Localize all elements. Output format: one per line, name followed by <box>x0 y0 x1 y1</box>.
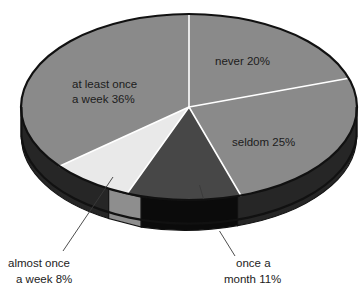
pie-chart-figure: never 20% seldom 25% at least once a wee… <box>0 0 360 295</box>
label-almost-once-a-week-line1: almost once <box>8 257 70 269</box>
label-once-a-month-line2: month 11% <box>224 273 281 285</box>
label-almost-once-a-week-line2: a week 8% <box>16 273 72 285</box>
pie-chart-svg: never 20% seldom 25% at least once a wee… <box>0 0 360 295</box>
label-never: never 20% <box>215 55 270 67</box>
outside-callout-labels: almost once a week 8% once a month 11% <box>8 257 281 285</box>
label-at-least-once-a-week-line2: a week 36% <box>72 93 135 105</box>
label-seldom: seldom 25% <box>232 136 295 148</box>
label-at-least-once-a-week-line1: at least once <box>72 78 137 90</box>
leader-line-once-a-month-outer <box>220 231 236 256</box>
label-once-a-month-line1: once a <box>236 257 271 269</box>
